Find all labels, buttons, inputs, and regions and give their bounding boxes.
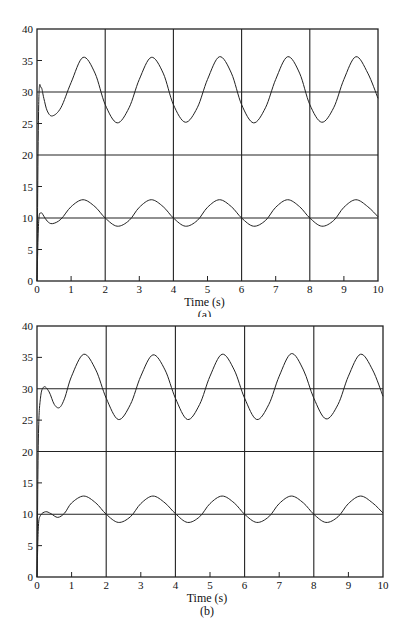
x-tick-label: 4 [173, 579, 179, 591]
y-tick-label: 0 [28, 571, 34, 583]
x-tick-label: 3 [137, 283, 143, 295]
y-tick-label: 5 [28, 540, 34, 552]
x-tick-label: 5 [205, 283, 211, 295]
y-tick-label: 20 [22, 149, 34, 161]
panel-label: (b) [200, 604, 214, 618]
x-tick-label: 6 [239, 283, 245, 295]
x-tick-label: 8 [311, 579, 317, 591]
x-tick-label: 8 [307, 283, 313, 295]
x-tick-label: 3 [138, 579, 144, 591]
y-tick-label: 35 [22, 55, 34, 67]
series-line [37, 57, 378, 281]
x-tick-label: 1 [69, 579, 75, 591]
series-line [37, 496, 383, 577]
y-tick-label: 0 [28, 275, 34, 287]
x-tick-label: 7 [273, 283, 279, 295]
x-tick-label: 1 [68, 283, 74, 295]
y-tick-label: 30 [22, 383, 34, 395]
y-tick-label: 20 [22, 446, 34, 458]
x-tick-label: 0 [34, 579, 40, 591]
y-tick-label: 10 [22, 212, 34, 224]
series-lines [37, 354, 383, 577]
x-tick-label: 10 [373, 283, 385, 295]
plot-a: 0123456789100510152025303540 Time (s) (a… [0, 0, 406, 317]
y-tick-label: 30 [22, 86, 34, 98]
y-tick-label: 40 [22, 320, 34, 332]
x-tick-label: 7 [276, 579, 282, 591]
x-tick-label: 9 [341, 283, 347, 295]
axis-ticks: 0123456789100510152025303540 [22, 23, 384, 295]
y-tick-label: 25 [22, 414, 34, 426]
y-tick-label: 40 [22, 23, 34, 35]
x-tick-label: 9 [346, 579, 352, 591]
series-line [37, 354, 383, 577]
y-tick-label: 25 [22, 118, 34, 130]
chart-panel-a: 0123456789100510152025303540 Time (s) (a… [0, 0, 406, 317]
y-tick-label: 15 [22, 181, 34, 193]
y-tick-label: 15 [22, 477, 34, 489]
x-tick-label: 4 [171, 283, 177, 295]
plot-b: 0123456789100510152025303540 Time (s) (b… [0, 317, 406, 634]
series-line [37, 200, 378, 281]
chart-panel-b: 0123456789100510152025303540 Time (s) (b… [0, 317, 406, 634]
panel-label: (a) [198, 308, 211, 317]
y-tick-label: 35 [22, 351, 34, 363]
series-lines [37, 57, 378, 281]
x-tick-label: 2 [102, 283, 108, 295]
x-axis-label: Time (s) [184, 295, 225, 309]
y-tick-label: 10 [22, 508, 34, 520]
y-tick-label: 5 [28, 244, 34, 256]
x-tick-label: 0 [34, 283, 40, 295]
x-tick-label: 2 [103, 579, 109, 591]
x-tick-label: 5 [207, 579, 213, 591]
x-axis-label: Time (s) [187, 591, 228, 605]
x-tick-label: 10 [378, 579, 390, 591]
grid-lines [37, 326, 383, 577]
grid-lines [37, 29, 378, 281]
axis-ticks: 0123456789100510152025303540 [22, 320, 389, 591]
x-tick-label: 6 [242, 579, 248, 591]
